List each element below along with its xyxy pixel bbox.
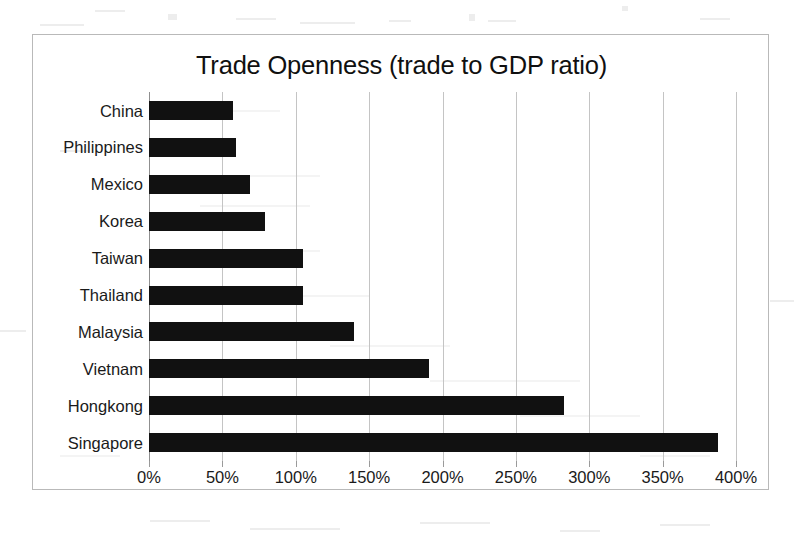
bar-vietnam <box>149 359 429 378</box>
tick-300 <box>589 461 590 467</box>
category-label-china: China <box>33 101 143 120</box>
xtick-label-0: 0% <box>137 468 161 487</box>
bar-row <box>149 424 736 461</box>
bar-thailand <box>149 286 303 305</box>
y-axis-category-labels: China Philippines Mexico Korea Taiwan Th… <box>33 92 143 461</box>
tick-200 <box>443 461 444 467</box>
category-label-korea: Korea <box>33 212 143 231</box>
tick-100 <box>296 461 297 467</box>
bar-taiwan <box>149 249 303 268</box>
bar-row <box>149 166 736 203</box>
gridline-400 <box>736 92 737 461</box>
bar-row <box>149 203 736 240</box>
bar-korea <box>149 212 265 231</box>
bar-row <box>149 277 736 314</box>
tick-350 <box>663 461 664 467</box>
xtick-label-400: 400% <box>715 468 757 487</box>
xtick-label-200: 200% <box>421 468 463 487</box>
bar-row <box>149 350 736 387</box>
bar-malaysia <box>149 322 354 341</box>
category-label-taiwan: Taiwan <box>33 249 143 268</box>
bar-philippines <box>149 138 236 157</box>
xtick-label-300: 300% <box>568 468 610 487</box>
chart-title: Trade Openness (trade to GDP ratio) <box>33 51 770 80</box>
category-label-philippines: Philippines <box>33 138 143 157</box>
bar-row <box>149 92 736 129</box>
bar-mexico <box>149 175 250 194</box>
category-label-hongkong: Hongkong <box>33 396 143 415</box>
bar-row <box>149 387 736 424</box>
tick-250 <box>516 461 517 467</box>
bar-row <box>149 313 736 350</box>
x-axis-tick-labels: 0% 50% 100% 150% 200% 250% 300% 350% 400… <box>149 468 736 492</box>
category-label-malaysia: Malaysia <box>33 322 143 341</box>
chart-frame: Trade Openness (trade to GDP ratio) Chin… <box>32 34 769 490</box>
category-label-thailand: Thailand <box>33 286 143 305</box>
bar-china <box>149 101 233 120</box>
category-label-mexico: Mexico <box>33 175 143 194</box>
xtick-label-250: 250% <box>495 468 537 487</box>
bar-hongkong <box>149 396 564 415</box>
tick-400 <box>736 461 737 467</box>
category-label-singapore: Singapore <box>33 433 143 452</box>
xtick-label-50: 50% <box>206 468 239 487</box>
bar-row <box>149 129 736 166</box>
tick-150 <box>369 461 370 467</box>
tick-0 <box>149 461 150 467</box>
plot-area <box>149 92 736 461</box>
category-label-vietnam: Vietnam <box>33 359 143 378</box>
xtick-label-350: 350% <box>641 468 683 487</box>
bar-row <box>149 240 736 277</box>
bar-singapore <box>149 433 718 452</box>
xtick-label-100: 100% <box>275 468 317 487</box>
xtick-label-150: 150% <box>348 468 390 487</box>
tick-50 <box>222 461 223 467</box>
